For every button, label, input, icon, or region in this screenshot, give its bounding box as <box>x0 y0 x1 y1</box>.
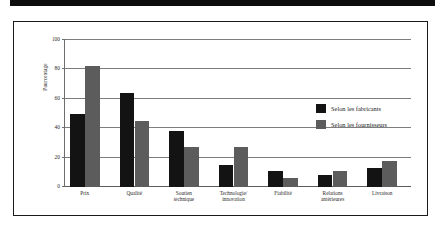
x-axis-label: Technologie/ innovation <box>209 190 259 203</box>
y-axis-title: Pourcentage <box>42 32 48 122</box>
legend-swatch-icon <box>316 104 326 113</box>
chart-legend: Selon les fabricantsSelon les fournisseu… <box>316 104 387 136</box>
bar-group <box>169 40 199 187</box>
x-axis-label: Soutien technique <box>159 190 209 203</box>
y-tick-label-60: 60 <box>55 95 60 101</box>
bar-group <box>219 40 249 187</box>
legend-label: Selon les fabricants <box>331 105 381 112</box>
bar-chart: Pourcentage 020406080100 PrixQualitéSout… <box>14 22 427 215</box>
x-axis-label: Prix <box>60 190 110 196</box>
bar <box>135 121 150 187</box>
x-axis-label: Qualité <box>110 190 160 196</box>
bar <box>382 161 397 187</box>
x-axis-label: Livraison <box>357 190 407 196</box>
bar <box>70 114 85 188</box>
y-tick-label-20: 20 <box>55 154 60 160</box>
legend-swatch-icon <box>316 120 326 129</box>
y-tick-label-0: 0 <box>57 183 60 189</box>
legend-item: Selon les fournisseurs <box>316 120 387 129</box>
bar <box>184 147 199 187</box>
bar <box>283 178 298 187</box>
y-tick-label-100: 100 <box>52 36 60 42</box>
bar <box>169 131 184 187</box>
bar-group <box>70 40 100 187</box>
x-axis-category-labels: PrixQualitéSoutien techniqueTechnologie/… <box>64 190 411 214</box>
bar <box>120 93 135 187</box>
bar-group <box>268 40 298 187</box>
bar-group <box>120 40 150 187</box>
bar <box>234 147 249 187</box>
figure-frame: Pourcentage 020406080100 PrixQualitéSout… <box>13 21 428 216</box>
y-tick-label-40: 40 <box>55 124 60 130</box>
x-axis-label: Fiabilité <box>258 190 308 196</box>
legend-item: Selon les fabricants <box>316 104 387 113</box>
bar <box>318 175 333 187</box>
x-axis-label: Relations antérieures <box>308 190 358 203</box>
bar <box>367 168 382 187</box>
bar <box>333 171 348 187</box>
bar <box>268 171 283 187</box>
legend-label: Selon les fournisseurs <box>331 121 387 128</box>
bar <box>219 165 234 187</box>
top-rule-bar <box>10 0 435 6</box>
y-tick-label-80: 80 <box>55 65 60 71</box>
bar <box>85 66 100 187</box>
